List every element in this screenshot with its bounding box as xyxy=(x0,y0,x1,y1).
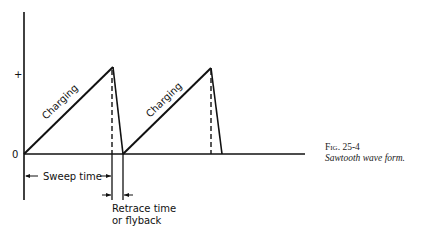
retrace-label-line-2: or flyback xyxy=(112,215,162,226)
charging-ramp-2 xyxy=(123,68,211,154)
zero-label: 0 xyxy=(12,149,18,160)
retrace-drop-2 xyxy=(211,68,222,154)
figure-title: Sawtooth wave form. xyxy=(325,153,405,164)
sweep-time-label: Sweep time xyxy=(43,171,102,182)
retrace-arrow-left xyxy=(102,193,111,197)
plus-label: + xyxy=(14,69,22,80)
sweep-arrow-left xyxy=(25,174,38,178)
retrace-drop-1 xyxy=(113,67,123,154)
retrace-label-line-1: Retrace time xyxy=(112,203,176,214)
charging-label-1: Charging xyxy=(40,82,80,121)
charging-ramp-1 xyxy=(24,67,113,154)
retrace-arrow-right xyxy=(124,193,133,197)
figure-caption: Fig. 25-4 Sawtooth wave form. xyxy=(325,142,405,164)
figure-number: Fig. 25-4 xyxy=(325,142,405,153)
sawtooth-diagram: + 0 Charging Charging Sweep time Retrace… xyxy=(0,0,426,239)
